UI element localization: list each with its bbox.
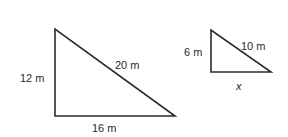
small-left-side-label: 6 m — [184, 46, 202, 58]
small-hypotenuse-label: 10 m — [241, 40, 265, 52]
large-bottom-side-label: 16 m — [92, 122, 116, 134]
small-bottom-side-label: x — [236, 80, 242, 92]
large-triangle — [55, 29, 175, 116]
triangles-figure — [0, 0, 288, 137]
large-left-side-label: 12 m — [20, 72, 44, 84]
large-hypotenuse-label: 20 m — [115, 59, 139, 71]
